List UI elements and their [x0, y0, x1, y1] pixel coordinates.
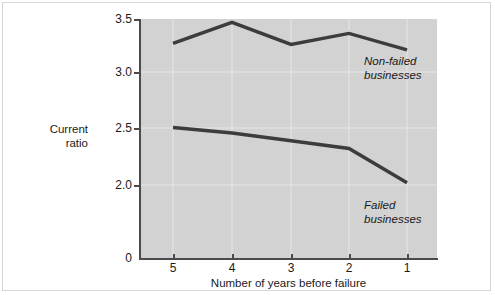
x-tick-1 [407, 254, 409, 260]
y-tick-label-3-0: 3.0 [92, 66, 132, 78]
x-tick-label-5: 5 [163, 262, 183, 274]
series-line-failed-businesses [173, 127, 407, 182]
series-line-non-failed-businesses [173, 22, 407, 50]
x-tick-5 [173, 254, 175, 260]
plot-area: Non-failed businesses Failed businesses [140, 19, 437, 258]
x-tick-label-2: 2 [339, 262, 359, 274]
x-tick-2 [349, 254, 351, 260]
x-axis-line [139, 258, 438, 260]
y-tick-3-0 [134, 72, 141, 74]
annotation-non-failed-businesses: Non-failed businesses [364, 55, 452, 82]
y-tick-2-5 [134, 128, 141, 130]
x-axis-title: Number of years before failure [140, 277, 437, 290]
y-tick-label-2-5: 2.5 [92, 122, 132, 134]
x-tick-3 [291, 254, 293, 260]
x-tick-4 [232, 254, 234, 260]
y-tick-3-5 [134, 19, 141, 21]
y-axis-line [139, 19, 141, 260]
x-tick-label-4: 4 [222, 262, 242, 274]
y-axis-title-line-2: ratio [30, 136, 88, 150]
y-axis-title-line-1: Current [30, 122, 88, 136]
x-tick-label-1: 1 [397, 262, 417, 274]
y-tick-label-2-0: 2.0 [92, 179, 132, 191]
y-axis-title: Current ratio [30, 122, 88, 150]
y-tick-label-0: 0 [92, 252, 132, 264]
annotation-failed-businesses: Failed businesses [364, 199, 452, 226]
y-tick-2-0 [134, 185, 141, 187]
y-tick-label-3-5: 3.5 [92, 13, 132, 25]
x-tick-label-3: 3 [281, 262, 301, 274]
chart-figure: Non-failed businesses Failed businesses … [0, 0, 495, 295]
